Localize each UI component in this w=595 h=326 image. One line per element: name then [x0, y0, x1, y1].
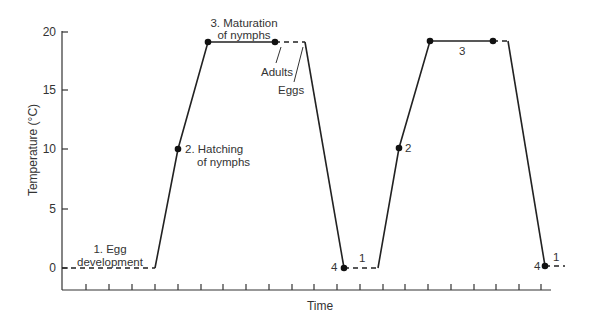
- label-stage4-a: 4: [331, 261, 338, 273]
- y-axis-title: Temperature (°C): [26, 104, 40, 196]
- marker-adults-1: [272, 39, 279, 46]
- y-axis: [62, 31, 68, 290]
- y-tick-5: 5: [49, 202, 56, 216]
- label-maturation-line2: of nymphs: [217, 29, 270, 41]
- y-tick-20: 20: [43, 25, 57, 39]
- y-tick-15: 15: [43, 83, 57, 97]
- label-adults: Adults: [261, 66, 293, 78]
- y-tick-10: 10: [43, 142, 57, 156]
- label-stage3-b: 3: [459, 45, 465, 57]
- marker-stage4-2: [542, 263, 549, 270]
- temperature-line-dashed: [62, 41, 565, 268]
- x-axis: [62, 284, 551, 290]
- x-axis-title: Time: [307, 299, 334, 313]
- marker-hatching-2: [396, 145, 403, 152]
- label-stage1-b: 1: [553, 251, 559, 263]
- label-maturation-line1: 3. Maturation: [210, 17, 277, 29]
- label-hatching-line1: 2. Hatching: [185, 143, 243, 155]
- label-egg-development-line1: 1. Egg: [93, 243, 126, 255]
- label-stage2-b: 2: [405, 142, 411, 154]
- marker-adults-2: [490, 38, 497, 45]
- y-tick-0: 0: [49, 261, 56, 275]
- marker-maturation-start-1: [205, 39, 212, 46]
- label-stage1-a: 1: [359, 252, 365, 264]
- label-hatching-line2: of nymphs: [197, 156, 250, 168]
- label-stage4-b: 4: [534, 260, 541, 272]
- marker-stage4-1: [341, 265, 348, 272]
- temperature-cycle-diagram: 20 15 10 5 0 Temperature (°C) Time 1. Eg…: [0, 0, 595, 326]
- label-egg-development-line2: development: [77, 256, 144, 268]
- marker-hatching-1: [175, 146, 182, 153]
- marker-maturation-start-2: [427, 38, 434, 45]
- label-eggs: Eggs: [278, 84, 304, 96]
